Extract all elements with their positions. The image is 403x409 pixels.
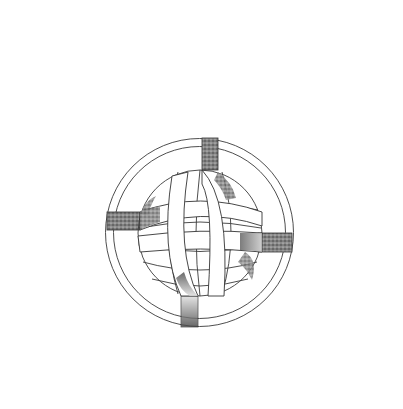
top-band-stub (202, 138, 218, 170)
woven-bands (138, 170, 262, 296)
knot-illustration (0, 0, 403, 409)
right-band-stub (258, 233, 292, 252)
bottom-band-stub (181, 296, 198, 327)
left-band-stub (107, 212, 140, 230)
